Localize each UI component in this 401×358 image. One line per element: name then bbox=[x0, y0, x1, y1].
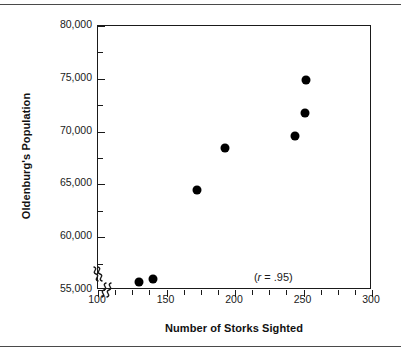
x-tick-minor bbox=[132, 290, 133, 295]
x-axis-break-icon bbox=[96, 283, 118, 299]
x-tick-minor bbox=[269, 290, 270, 295]
y-tick-major bbox=[98, 132, 105, 133]
x-tick-major bbox=[372, 290, 373, 297]
y-tick-major bbox=[98, 237, 105, 238]
data-point bbox=[148, 275, 157, 284]
x-tick-minor bbox=[218, 290, 219, 295]
y-tick-minor bbox=[98, 105, 103, 106]
y-tick-major bbox=[98, 26, 105, 27]
data-point bbox=[192, 185, 201, 194]
x-tick-major bbox=[235, 290, 236, 297]
x-tick-label: 150 bbox=[157, 294, 175, 305]
y-tick-minor bbox=[98, 52, 103, 53]
annotation-value: = .95) bbox=[261, 271, 293, 283]
x-axis-title: Number of Storks Sighted bbox=[97, 322, 371, 334]
x-tick-major bbox=[167, 290, 168, 297]
x-tick-minor bbox=[201, 290, 202, 295]
x-tick-minor bbox=[149, 290, 150, 295]
y-axis-title: Oldenburg's Population bbox=[20, 46, 32, 266]
plot-frame: (r = .95) bbox=[97, 25, 371, 289]
x-tick-label: 250 bbox=[294, 294, 312, 305]
y-tick-major bbox=[98, 79, 105, 80]
x-tick-minor bbox=[355, 290, 356, 295]
y-tick-minor bbox=[98, 158, 103, 159]
data-point bbox=[135, 277, 144, 286]
x-tick-minor bbox=[252, 290, 253, 295]
y-tick-minor bbox=[98, 211, 103, 212]
y-tick-major bbox=[98, 184, 105, 185]
figure-container: 55,00060,00065,00070,00075,00080,000 100… bbox=[0, 0, 401, 358]
x-tick-label: 300 bbox=[362, 294, 380, 305]
data-point bbox=[291, 131, 300, 140]
x-tick-minor bbox=[338, 290, 339, 295]
correlation-annotation: (r = .95) bbox=[254, 271, 293, 283]
data-point bbox=[221, 144, 230, 153]
data-point bbox=[302, 75, 311, 84]
x-tick-minor bbox=[321, 290, 322, 295]
x-tick-minor bbox=[286, 290, 287, 295]
data-point bbox=[300, 108, 309, 117]
x-tick-label: 200 bbox=[225, 294, 243, 305]
x-tick-major bbox=[304, 290, 305, 297]
x-tick-minor bbox=[184, 290, 185, 295]
